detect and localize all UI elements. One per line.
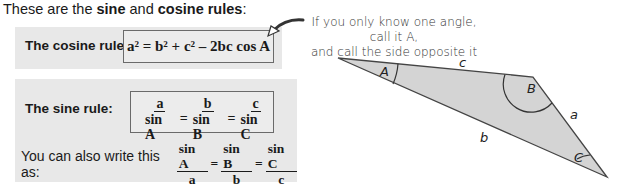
side-label-b: b [480,130,488,145]
triangle-shape [338,58,607,177]
angle-label-B: B [527,81,536,96]
side-label-c: c [459,55,466,70]
angle-label-C: C [574,150,583,165]
side-label-a: a [570,107,578,122]
angle-label-A: A [380,64,389,79]
arrow-icon [274,20,303,30]
